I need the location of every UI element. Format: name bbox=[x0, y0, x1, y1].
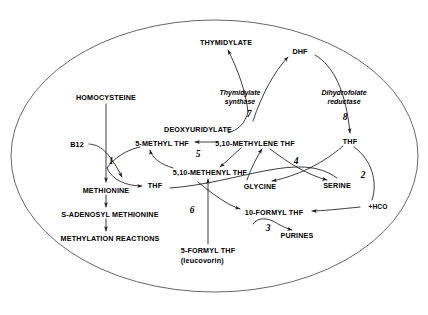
node-methylation-reactions: METHYLATION REACTIONS bbox=[61, 234, 160, 243]
node-5-10-methenyl-thf: 5,10-METHENYL THF bbox=[173, 168, 247, 177]
enzyme-dihydrofolate-reductase: Dihydrofolate reductase bbox=[321, 88, 366, 106]
diagram-canvas: HOMOCYSTEINE B12 METHIONINE S-ADENOSYL M… bbox=[0, 0, 428, 315]
arrow-methenyl-to-5-methyl-thf bbox=[150, 150, 173, 168]
step-number-8: 8 bbox=[343, 112, 348, 122]
node-5-formyl-thf: 5-FORMYL THF (leucovorin) bbox=[181, 246, 235, 265]
node-methionine: METHIONINE bbox=[83, 186, 130, 195]
step-number-5: 5 bbox=[196, 149, 201, 159]
arrow-thf-right-to-glycine bbox=[272, 146, 343, 181]
node-serine: SERINE bbox=[323, 181, 351, 190]
step-number-3: 3 bbox=[266, 223, 271, 233]
node-s-adenosyl-methionine: S-ADENOSYL METHIONINE bbox=[61, 210, 158, 219]
node-5-methyl-thf: 5-METHYL THF bbox=[135, 139, 189, 148]
arrow-glycine-to-methylene bbox=[247, 149, 262, 180]
enzyme-thymidylate-synthase-line1: Thymidylate bbox=[220, 88, 261, 97]
arrow-methenyl-to-10-formyl-thf bbox=[198, 182, 240, 209]
enzyme-dihydrofolate-reductase-line1: Dihydrofolate bbox=[321, 88, 366, 97]
node-thf-left: THF bbox=[148, 181, 162, 190]
step-number-7: 7 bbox=[247, 109, 252, 119]
enzyme-thymidylate-synthase: Thymidylate synthase bbox=[220, 88, 261, 106]
node-thymidylate: THYMIDYLATE bbox=[200, 38, 252, 47]
arrow-hco-to-10-formyl-thf bbox=[312, 207, 360, 211]
step-number-4: 4 bbox=[294, 156, 299, 166]
arrow-b12-cofactor bbox=[89, 144, 122, 177]
arrow-reaction1-to-thf bbox=[107, 168, 142, 186]
node-homocysteine: HOMOCYSTEINE bbox=[76, 93, 136, 102]
pathway-svg bbox=[0, 0, 428, 315]
step-number-1: 1 bbox=[109, 156, 114, 166]
enzyme-thymidylate-synthase-line2: synthase bbox=[220, 97, 261, 106]
node-10-formyl-thf: 10-FORMYL THF bbox=[245, 208, 304, 217]
node-purines: PURINES bbox=[280, 231, 313, 240]
node-5-formyl-thf-name: 5-FORMYL THF bbox=[181, 246, 235, 256]
node-b12: B12 bbox=[70, 140, 84, 149]
node-dhf: DHF bbox=[292, 47, 307, 56]
node-5-10-methylene-thf: 5,10-METHYLENE THF bbox=[215, 139, 294, 148]
step-number-2: 2 bbox=[361, 170, 366, 180]
arrow-methylene-to-methenyl bbox=[220, 148, 241, 167]
node-hco: +HCO bbox=[368, 203, 387, 211]
step-number-6: 6 bbox=[190, 205, 195, 215]
enzyme-dihydrofolate-reductase-line2: reductase bbox=[321, 97, 366, 106]
node-glycine: GLYCINE bbox=[244, 182, 276, 191]
node-5-formyl-thf-sublabel: (leucovorin) bbox=[181, 256, 235, 266]
arrow-10-formyl-thf-to-purines bbox=[253, 219, 292, 230]
node-thf-right: THF bbox=[343, 137, 357, 146]
node-deoxyuridylate: DEOXYURIDYLATE bbox=[164, 125, 232, 134]
